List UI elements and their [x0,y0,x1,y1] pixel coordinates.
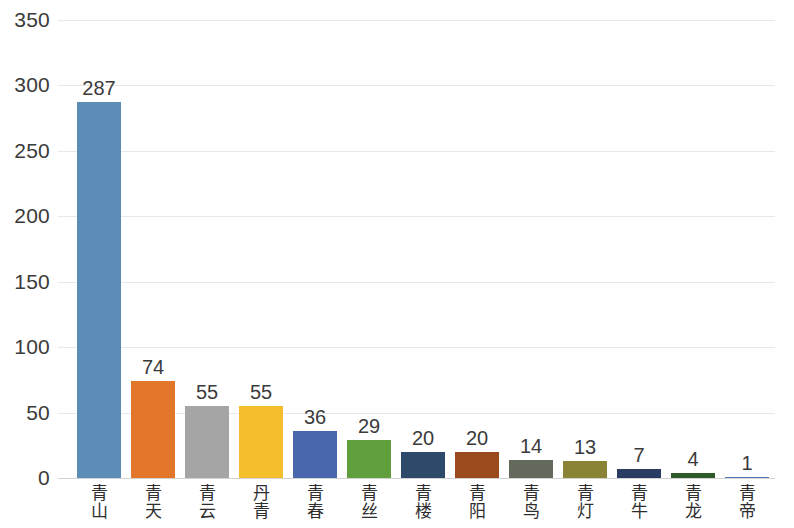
bar[interactable] [455,452,499,478]
category-label-char: 丝 [342,502,396,520]
bar-value-label: 1 [720,453,774,473]
bar-slot[interactable]: 74 [126,0,180,478]
x-axis-category-label: 青灯 [558,484,612,521]
category-label-char: 青 [72,484,126,502]
bar[interactable] [617,469,661,478]
x-axis-category-label: 青云 [180,484,234,521]
x-axis-category-label: 青山 [72,484,126,521]
category-label-char: 春 [288,502,342,520]
bar-value-label: 7 [612,445,666,465]
bar[interactable] [239,406,283,478]
category-label-char: 帝 [720,502,774,520]
category-label-char: 云 [180,502,234,520]
x-axis-category-label: 青阳 [450,484,504,521]
bar-value-label: 55 [180,382,234,402]
category-label-char: 阳 [450,502,504,520]
bar[interactable] [401,452,445,478]
bar[interactable] [509,460,553,478]
x-axis-category-label: 青丝 [342,484,396,521]
category-label-char: 青 [234,502,288,520]
category-label-char: 灯 [558,502,612,520]
bar-value-label: 20 [450,428,504,448]
category-label-char: 龙 [666,502,720,520]
x-axis-category-label: 青春 [288,484,342,521]
category-label-char: 青 [450,484,504,502]
category-label-char: 青 [720,484,774,502]
bar-value-label: 14 [504,436,558,456]
y-axis-tick-label: 300 [4,74,50,95]
bar-value-label: 13 [558,437,612,457]
bar-slot[interactable]: 7 [612,0,666,478]
bar[interactable] [131,381,175,478]
bar-slot[interactable]: 29 [342,0,396,478]
category-label-char: 青 [180,484,234,502]
category-label-char: 青 [126,484,180,502]
x-axis-category-label: 青天 [126,484,180,521]
y-axis-tick-label: 50 [4,402,50,423]
category-label-char: 牛 [612,502,666,520]
category-label-char: 青 [342,484,396,502]
plot-area: 287745555362920201413741 青山青天青云丹青青春青丝青楼青… [58,0,775,528]
y-axis-tick-label: 200 [4,205,50,226]
bar-slot[interactable]: 36 [288,0,342,478]
y-axis-tick-label: 150 [4,271,50,292]
category-label-char: 天 [126,502,180,520]
bar-slot[interactable]: 4 [666,0,720,478]
bar-slot[interactable]: 1 [720,0,774,478]
category-label-char: 青 [558,484,612,502]
bar[interactable] [293,431,337,478]
bar-value-label: 287 [72,78,126,98]
bar[interactable] [185,406,229,478]
y-axis-tick-label: 0 [4,467,50,488]
bar-slot[interactable]: 55 [180,0,234,478]
bar-chart: 287745555362920201413741 青山青天青云丹青青春青丝青楼青… [0,0,794,528]
bar-slot[interactable]: 55 [234,0,288,478]
category-label-char: 鸟 [504,502,558,520]
bar-value-label: 20 [396,428,450,448]
bar-slot[interactable]: 20 [396,0,450,478]
x-axis-baseline [58,478,775,479]
category-label-char: 青 [288,484,342,502]
category-label-char: 青 [504,484,558,502]
bar[interactable] [671,473,715,478]
bar[interactable] [347,440,391,478]
bar-slot[interactable]: 287 [72,0,126,478]
x-axis-category-label: 青龙 [666,484,720,521]
bar-value-label: 36 [288,407,342,427]
bar[interactable] [563,461,607,478]
bar-value-label: 29 [342,416,396,436]
x-axis-category-label: 青楼 [396,484,450,521]
bar-value-label: 55 [234,382,288,402]
y-axis-tick-label: 350 [4,9,50,30]
bar[interactable] [725,477,769,478]
y-axis-tick-label: 100 [4,336,50,357]
bar-value-label: 4 [666,449,720,469]
x-axis-category-label: 青鸟 [504,484,558,521]
x-axis-category-label: 丹青 [234,484,288,521]
bar-slot[interactable]: 20 [450,0,504,478]
category-label-char: 青 [612,484,666,502]
x-axis-category-label: 青牛 [612,484,666,521]
category-label-char: 楼 [396,502,450,520]
category-label-char: 山 [72,502,126,520]
category-label-char: 青 [666,484,720,502]
x-axis-category-label: 青帝 [720,484,774,521]
y-axis: 050100150200250300350 [0,0,50,528]
y-axis-tick-label: 250 [4,140,50,161]
category-label-char: 丹 [234,484,288,502]
bar-value-label: 74 [126,357,180,377]
bar-slot[interactable]: 13 [558,0,612,478]
category-label-char: 青 [396,484,450,502]
bar[interactable] [77,102,121,478]
bar-slot[interactable]: 14 [504,0,558,478]
